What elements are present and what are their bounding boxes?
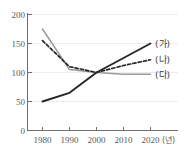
x-tick-label-2000: 2000: [88, 135, 107, 145]
x-tick-labels-group: 1980 1990 2000 2010 2020 (년): [34, 135, 176, 145]
series-label-da: (다): [155, 70, 170, 80]
x-tick-label-1990: 1990: [61, 135, 80, 145]
x-tick-label-2020: 2020: [142, 135, 161, 145]
series-labels-group: (가) (나) (다): [155, 39, 170, 80]
y-tick-label-200: 200: [12, 10, 26, 20]
y-tick-label-100: 100: [12, 68, 26, 78]
x-axis-unit-label: (년): [162, 135, 175, 145]
series-group: [43, 29, 151, 102]
x-tick-label-1980: 1980: [34, 135, 53, 145]
y-tick-label-150: 150: [12, 39, 26, 49]
line-chart-figure: 200 150 100 50 0 1980 1990 2000 2010 202…: [0, 0, 184, 149]
y-tick-label-0: 0: [21, 126, 26, 136]
y-tick-labels-group: 200 150 100 50 0: [12, 10, 26, 136]
series-line-na: [43, 41, 151, 73]
chart-canvas: 200 150 100 50 0 1980 1990 2000 2010 202…: [0, 0, 184, 149]
series-label-ga: (가): [155, 39, 170, 49]
series-label-na: (나): [155, 55, 170, 65]
x-tick-label-2010: 2010: [115, 135, 134, 145]
y-tick-label-50: 50: [16, 97, 26, 107]
